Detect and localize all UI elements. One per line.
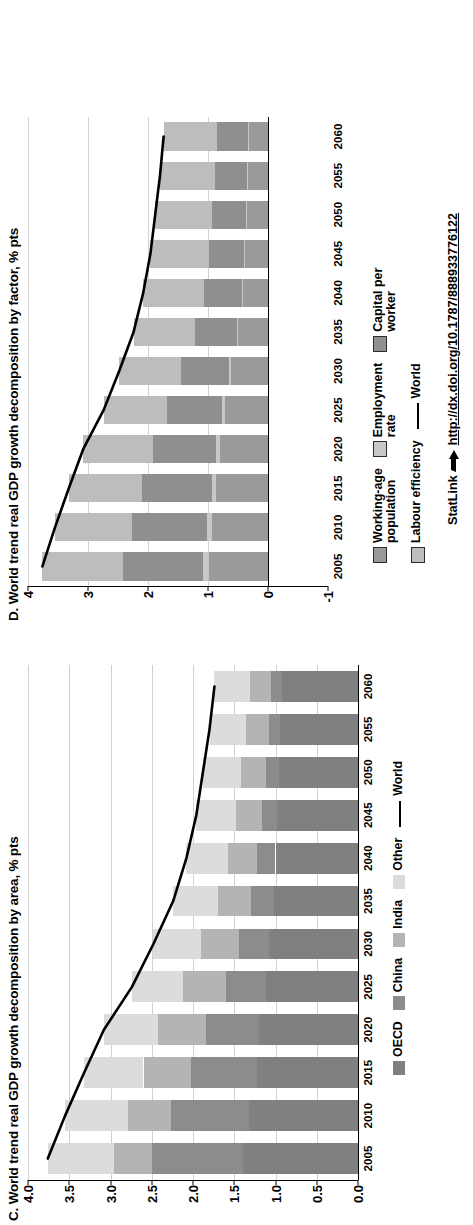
x-axis-tick-label: 2020 xyxy=(331,436,344,462)
bar-segment xyxy=(243,1143,359,1174)
bar-segment xyxy=(248,162,268,190)
bar-segment xyxy=(104,396,168,424)
y-axis-tick-label: 3.5 xyxy=(62,1185,77,1203)
y-axis-tick-label: 3.0 xyxy=(103,1185,118,1203)
legend-color-swatch xyxy=(393,933,405,947)
bar-segment xyxy=(274,886,358,917)
x-axis-tick-label: 2060 xyxy=(361,674,374,700)
statlink-arrow-icon xyxy=(448,449,459,471)
legend-item: Capital perworker xyxy=(372,268,398,352)
bar-segment xyxy=(186,843,227,874)
bar-segment xyxy=(220,435,268,463)
bar-segment xyxy=(155,201,212,229)
x-axis-tick-label: 2040 xyxy=(331,280,344,306)
panel-c: C. World trend real GDP growth decomposi… xyxy=(0,625,473,1225)
x-axis-tick-label: 2010 xyxy=(331,514,344,540)
legend-label: World xyxy=(392,761,405,796)
bar-segment xyxy=(196,800,236,831)
statlink-url[interactable]: http://dx.doi.org/10.1787/888933776122 xyxy=(446,213,460,445)
bar-group xyxy=(28,318,328,346)
y-axis-tick-label: 1.0 xyxy=(268,1185,283,1203)
bar-segment xyxy=(195,318,237,346)
legend-color-swatch xyxy=(373,547,387,563)
legend-label: Employmentrate xyxy=(372,363,398,437)
legend-color-swatch xyxy=(373,441,387,457)
bar-segment xyxy=(150,240,209,268)
bar-segment xyxy=(231,357,268,385)
bar-segment xyxy=(282,671,358,702)
bar-segment xyxy=(225,396,268,424)
y-axis-tick-mark xyxy=(358,1180,359,1185)
bar-segment xyxy=(48,1143,114,1174)
x-axis-tick-label: 2050 xyxy=(331,202,344,228)
x-axis-tick-label: 2055 xyxy=(361,716,374,742)
legend-color-swatch xyxy=(393,1061,405,1075)
bar-group xyxy=(28,1143,358,1174)
bar-segment xyxy=(216,435,220,463)
x-axis-tick-label: 2015 xyxy=(361,1060,374,1086)
legend-item: OECD xyxy=(392,1021,405,1075)
y-axis-tick-label: -1 xyxy=(321,591,336,603)
y-axis-tick-label: 4.0 xyxy=(21,1185,36,1203)
legend-color-swatch xyxy=(373,336,387,352)
bar-segment xyxy=(128,1100,171,1131)
legend-color-swatch xyxy=(411,547,425,563)
bar-segment xyxy=(214,671,249,702)
bar-segment xyxy=(241,757,266,788)
bar-group xyxy=(28,201,328,229)
bar-segment xyxy=(248,123,249,151)
bar-group xyxy=(28,279,328,307)
panel-c-legend: OECDChinaIndiaOtherWorld xyxy=(392,750,405,1075)
statlink: StatLink http://dx.doi.org/10.1787/88893… xyxy=(446,213,460,525)
bar-segment xyxy=(153,929,201,960)
bar-segment xyxy=(238,318,268,346)
bar-segment xyxy=(209,552,268,580)
bar-segment xyxy=(266,971,358,1002)
bar-group xyxy=(28,396,328,424)
bar-segment xyxy=(183,971,226,1002)
bar-segment xyxy=(212,474,217,502)
bar-segment xyxy=(55,513,132,541)
y-axis-tick-mark xyxy=(110,1180,111,1185)
bar-segment xyxy=(249,1100,358,1131)
bar-segment xyxy=(167,396,222,424)
x-axis-tick-label: 2055 xyxy=(331,163,344,189)
bar-segment xyxy=(218,886,251,917)
legend-label: OECD xyxy=(392,1021,405,1057)
x-axis-line xyxy=(358,665,359,1180)
bar-segment xyxy=(259,1014,358,1045)
bar-segment xyxy=(181,357,229,385)
bar-segment xyxy=(158,1014,206,1045)
x-axis-tick-label: 2030 xyxy=(361,931,374,957)
bar-group xyxy=(28,714,358,745)
bar-segment xyxy=(246,201,247,229)
x-axis-tick-label: 2005 xyxy=(361,1146,374,1172)
bar-segment xyxy=(246,714,269,745)
x-axis-tick-label: 2005 xyxy=(331,554,344,580)
y-axis-tick-label: 4 xyxy=(21,591,36,598)
bar-segment xyxy=(203,552,209,580)
bar-segment xyxy=(134,318,195,346)
bar-segment xyxy=(119,357,181,385)
statlink-label: StatLink xyxy=(446,475,460,525)
bar-group xyxy=(28,757,358,788)
x-axis-tick-label: 2025 xyxy=(361,974,374,1000)
bar-segment xyxy=(160,162,215,190)
x-axis-tick-label: 2045 xyxy=(331,241,344,267)
bar-segment xyxy=(236,800,262,831)
bar-segment xyxy=(222,396,224,424)
legend-color-swatch xyxy=(393,875,405,889)
bar-segment xyxy=(204,279,241,307)
y-axis-tick-mark xyxy=(88,586,89,591)
y-axis-tick-mark xyxy=(69,1180,70,1185)
x-axis-tick-label: 2015 xyxy=(331,475,344,501)
bar-group xyxy=(28,357,328,385)
bar-segment xyxy=(83,435,153,463)
y-axis-tick-label: 2.5 xyxy=(144,1185,159,1203)
bar-group xyxy=(28,1014,358,1045)
bar-segment xyxy=(262,800,277,831)
bar-segment xyxy=(250,671,271,702)
bar-segment xyxy=(277,800,358,831)
y-axis-tick-mark xyxy=(151,1180,152,1185)
y-axis-tick-label: 2 xyxy=(141,591,156,598)
